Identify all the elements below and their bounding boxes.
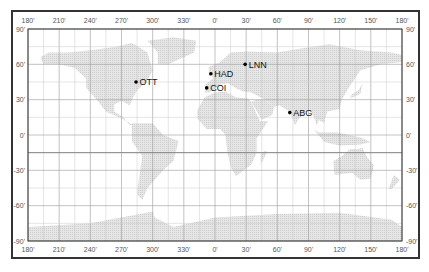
lon-label-bottom: 60' <box>273 246 282 253</box>
station-marker-icon <box>205 86 209 90</box>
lat-label-right: -60' <box>406 202 417 209</box>
lat-label-right: -90' <box>406 238 417 245</box>
lat-label-left: 30' <box>16 96 25 103</box>
lat-label-right: 90' <box>406 26 415 33</box>
lon-label-bottom: 270' <box>115 246 128 253</box>
lon-label-top: 0' <box>212 17 217 24</box>
lon-label-bottom: 30' <box>242 246 251 253</box>
lat-label-right: -30' <box>406 167 417 174</box>
station-marker-icon <box>134 80 138 84</box>
lat-label-left: 60' <box>16 61 25 68</box>
land-mass <box>314 129 371 146</box>
lon-label-bottom: 120' <box>333 246 346 253</box>
station-label: OTT <box>140 77 158 87</box>
station-marker-icon <box>243 63 247 67</box>
lon-label-top: 240' <box>84 17 97 24</box>
lat-label-right: 30' <box>406 96 415 103</box>
land-mass <box>350 83 362 98</box>
lon-label-top: 90' <box>304 17 313 24</box>
lon-label-top: 150' <box>364 17 377 24</box>
lat-label-left: -30' <box>14 167 25 174</box>
lon-label-bottom: 240' <box>84 246 97 253</box>
lon-label-top: 120' <box>333 17 346 24</box>
lon-label-bottom: 330' <box>177 246 190 253</box>
station-marker-icon <box>288 111 292 115</box>
lon-label-bottom: 210' <box>53 246 66 253</box>
station-label: LNN <box>249 60 267 70</box>
station-marker-icon <box>209 72 213 76</box>
lon-label-bottom: 90' <box>304 246 313 253</box>
lon-label-top: 180' <box>395 17 408 24</box>
land-mass <box>132 123 179 200</box>
world-map: 180'180'210'210'240'240'270'270'300'300'… <box>0 0 429 272</box>
lon-label-top: 210' <box>53 17 66 24</box>
lon-label-bottom: 0' <box>212 246 217 253</box>
lon-label-bottom: 150' <box>364 246 377 253</box>
lon-label-bottom: 300' <box>146 246 159 253</box>
lon-label-top: 330' <box>177 17 190 24</box>
lat-label-left: -60' <box>14 202 25 209</box>
land-mass <box>41 43 153 126</box>
lat-label-left: -90' <box>14 238 25 245</box>
lon-label-top: 30' <box>242 17 251 24</box>
lon-label-bottom: 180' <box>21 246 34 253</box>
station-label: COI <box>210 83 226 93</box>
station-label: ABG <box>293 108 312 118</box>
lon-label-top: 270' <box>115 17 128 24</box>
lat-label-right: 60' <box>406 61 415 68</box>
land-mass <box>148 37 197 64</box>
lon-label-top: 300' <box>146 17 159 24</box>
lat-label-right: 0' <box>406 132 411 139</box>
land-mass <box>389 175 400 189</box>
lon-label-top: 180' <box>21 17 34 24</box>
lon-label-bottom: 180' <box>395 246 408 253</box>
lat-label-left: 90' <box>16 26 25 33</box>
station-label: HAD <box>214 69 234 79</box>
lon-label-top: 60' <box>273 17 282 24</box>
lat-label-left: 0' <box>20 132 25 139</box>
